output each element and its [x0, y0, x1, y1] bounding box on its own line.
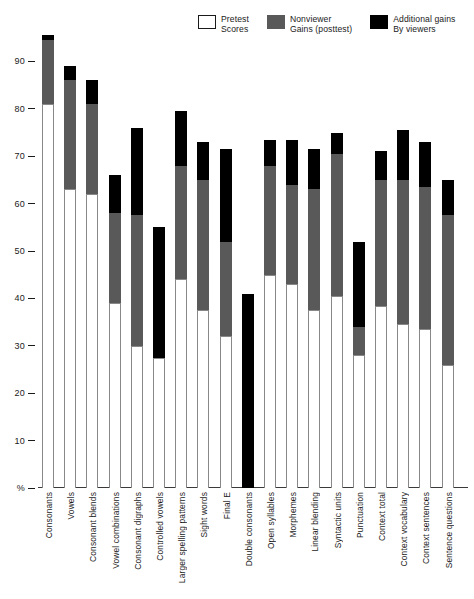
bar-context-sentences[interactable] [419, 142, 431, 488]
bar-segment-additional-gains [153, 227, 165, 357]
bar-segment-pretest [131, 346, 143, 488]
bar-segment-nonviewer-gains [286, 185, 298, 285]
x-axis-labels: ConsonantsVowelsConsonant blendsVowel co… [38, 492, 468, 599]
bar-segment-pretest [175, 279, 187, 488]
bar-chart: Pretest Scores Nonviewer Gains (posttest… [0, 0, 474, 599]
bar-segment-additional-gains [397, 130, 409, 180]
bar-segment-pretest [220, 336, 232, 488]
tick-mark-icon [28, 393, 35, 394]
bar-series-container [38, 14, 468, 488]
bar-segment-pretest [353, 355, 365, 488]
bar-morphemes[interactable] [286, 140, 298, 488]
x-axis-label-double-consonants: Double consonants [243, 492, 255, 566]
bar-segment-additional-gains [353, 242, 365, 327]
bar-syntactic-units[interactable] [331, 133, 343, 488]
bar-sight-words[interactable] [197, 142, 209, 488]
bar-vowels[interactable] [64, 66, 76, 488]
bar-segment-pretest [197, 310, 209, 488]
x-axis-label-consonants: Consonants [43, 492, 55, 538]
bar-segment-additional-gains [286, 140, 298, 185]
y-axis-tick-20: 20 [15, 388, 38, 398]
bar-segment-pretest [153, 358, 165, 488]
bar-consonant-blends[interactable] [86, 80, 98, 488]
bar-final-e[interactable] [220, 149, 232, 488]
bar-segment-pretest [64, 189, 76, 488]
bar-segment-pretest [86, 194, 98, 488]
x-axis-label-consonant-blends: Consonant blends [87, 492, 99, 562]
tick-mark-icon [28, 203, 35, 204]
bar-segment-pretest [419, 329, 431, 488]
x-axis-label-syntactic-units: Syntactic units [332, 492, 344, 548]
bar-segment-additional-gains [264, 140, 276, 166]
bar-segment-pretest [286, 284, 298, 488]
bar-segment-pretest [264, 275, 276, 488]
x-axis-label-open-syllables: Open syllables [265, 492, 277, 549]
bar-segment-additional-gains [419, 142, 431, 187]
bar-segment-nonviewer-gains [419, 187, 431, 329]
bar-segment-nonviewer-gains [308, 189, 320, 310]
y-axis-tick-label: 80 [15, 104, 25, 114]
bar-segment-nonviewer-gains [86, 104, 98, 194]
bar-punctuation[interactable] [353, 242, 365, 488]
bar-segment-nonviewer-gains [331, 154, 343, 296]
bar-consonant-digraphs[interactable] [131, 128, 143, 488]
bar-segment-nonviewer-gains [131, 215, 143, 345]
bar-segment-nonviewer-gains [397, 180, 409, 325]
bar-segment-additional-gains [308, 149, 320, 189]
y-axis-tick-label: 10 [15, 436, 25, 446]
x-axis-label-vowels: Vowels [65, 492, 77, 519]
bar-segment-additional-gains [220, 149, 232, 241]
y-axis-tick-label: 90 [15, 56, 25, 66]
bar-linear-blending[interactable] [308, 149, 320, 488]
x-axis-label-morphemes: Morphemes [287, 492, 299, 538]
y-axis-tick-label: 70 [15, 151, 25, 161]
plot-area: 908070605040302010% [38, 14, 468, 488]
y-axis-tick-50: 50 [15, 246, 38, 256]
bar-segment-additional-gains [331, 133, 343, 154]
bar-segment-nonviewer-gains [442, 215, 454, 364]
bar-vowel-combinations[interactable] [109, 175, 121, 488]
bar-segment-nonviewer-gains [42, 40, 54, 104]
x-axis-label-vowel-combinations: Vowel combinations [110, 492, 122, 569]
x-axis-label-sight-words: Sight words [198, 492, 210, 537]
bar-larger-spelling-patterns[interactable] [175, 111, 187, 488]
bar-open-syllables[interactable] [264, 140, 276, 488]
y-axis-tick-80: 80 [15, 104, 38, 114]
bar-context-total[interactable] [375, 151, 387, 488]
bar-segment-additional-gains [64, 66, 76, 80]
bar-segment-nonviewer-gains [64, 80, 76, 189]
bar-controlled-vowels[interactable] [153, 227, 165, 488]
y-axis-tick-label: 50 [15, 246, 25, 256]
y-axis-unit-label: % [17, 483, 38, 493]
tick-mark-icon [28, 440, 35, 441]
bar-consonants[interactable] [42, 35, 54, 488]
y-axis-tick-label: 20 [15, 388, 25, 398]
x-axis-label-context-total: Context total [376, 492, 388, 541]
bar-sentence-questions[interactable] [442, 180, 454, 488]
bar-segment-pretest [42, 104, 54, 488]
bar-segment-nonviewer-gains [353, 327, 365, 355]
y-axis-tick-label: 40 [15, 293, 25, 303]
y-axis-tick-label: 30 [15, 341, 25, 351]
y-axis-tick-label: 60 [15, 199, 25, 209]
bar-segment-pretest [442, 365, 454, 488]
bar-segment-additional-gains [442, 180, 454, 216]
bar-segment-nonviewer-gains [375, 180, 387, 306]
y-axis-tick-70: 70 [15, 151, 38, 161]
tick-mark-icon [28, 108, 35, 109]
tick-mark-icon [28, 251, 35, 252]
bar-segment-nonviewer-gains [220, 242, 232, 337]
bar-segment-nonviewer-gains [197, 180, 209, 310]
bar-segment-pretest [109, 303, 121, 488]
bar-segment-additional-gains [197, 142, 209, 180]
tick-mark-icon [28, 488, 35, 489]
x-axis-label-context-sentences: Context sentences [420, 492, 432, 564]
bar-segment-additional-gains [375, 151, 387, 179]
bar-segment-additional-gains [109, 175, 121, 213]
x-axis-label-consonant-digraphs: Consonant digraphs [132, 492, 144, 570]
bar-context-vocabulary[interactable] [397, 130, 409, 488]
tick-mark-icon [28, 61, 35, 62]
bar-double-consonants[interactable] [242, 294, 254, 488]
x-axis-label-context-vocabulary: Context vocabulary [398, 492, 410, 566]
y-axis-tick-90: 90 [15, 56, 38, 66]
